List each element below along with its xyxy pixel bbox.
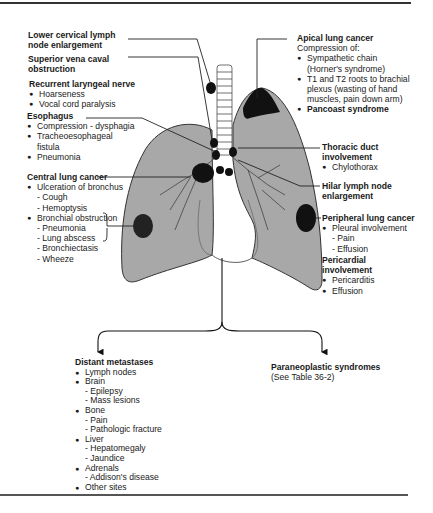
pancoast-item: Pancoast syndrome xyxy=(297,104,410,114)
trachea xyxy=(217,65,232,155)
sub-item: - Lung abscess xyxy=(27,233,123,243)
hilar-title-2: enlargement xyxy=(322,191,392,201)
heart-outline xyxy=(212,255,252,262)
label-esophagus: Esophagus Compression - dysphagia Trache… xyxy=(27,111,134,162)
peripheral-title: Peripheral lung cancer xyxy=(322,213,415,223)
label-distant-metastases: Distant metastases Lymph nodes Brain - E… xyxy=(75,358,162,492)
label-pericardial: Pericardial involvement Pericarditis Eff… xyxy=(322,255,375,296)
label-recurrent-laryngeal: Recurrent laryngeal nerve Hoarseness Voc… xyxy=(29,79,135,110)
hilar-title-1: Hilar lymph node xyxy=(322,181,392,191)
svc-title-2: obstruction xyxy=(28,64,109,74)
sub-item: - Wheeze xyxy=(27,254,123,264)
list-item: Pleural involvement xyxy=(322,223,415,233)
sub-item: - Pain xyxy=(322,233,415,243)
label-peripheral-lung-cancer: Peripheral lung cancer Pleural involveme… xyxy=(322,213,415,254)
list-item: Effusion xyxy=(322,286,375,296)
sub-item: - Effusion xyxy=(322,244,415,254)
paraneoplastic-title: Paraneoplastic syndromes xyxy=(271,362,380,372)
central-lung-cancer-title: Central lung cancer xyxy=(27,172,123,182)
recurrent-laryngeal-title: Recurrent laryngeal nerve xyxy=(29,79,135,89)
sub-item: - Pneumonia xyxy=(27,223,123,233)
thoracic-duct-title-2: involvement xyxy=(322,152,378,162)
peripheral-tumor xyxy=(296,204,316,232)
list-item-cont: plexus (wasting of hand xyxy=(297,84,410,94)
list-item: Bronchial obstruction xyxy=(27,213,123,223)
list-item-cont: muscles, pain down arm) xyxy=(297,94,410,104)
list-item: Chylothorax xyxy=(322,162,378,172)
list-item: Compression - dysphagia xyxy=(27,121,134,131)
list-item: Hoarseness xyxy=(29,89,135,99)
label-apical-lung-cancer: Apical lung cancer Compression of: Sympa… xyxy=(297,33,410,115)
distant-list: Lymph nodes Brain - Epilepsy - Mass lesi… xyxy=(75,368,162,493)
label-paraneoplastic: Paraneoplastic syndromes (See Table 36-2… xyxy=(271,362,380,382)
list-item: Sympathetic chain xyxy=(297,53,410,63)
label-lower-cervical: Lower cervical lymph node enlargement xyxy=(28,30,115,50)
list-item: Other sites xyxy=(75,483,162,493)
list-item: Pneumonia xyxy=(27,152,134,162)
thoracic-duct-title-1: Thoracic duct xyxy=(322,142,378,152)
lower-cervical-title-2: node enlargement xyxy=(28,40,115,50)
list-item-cont: fistula xyxy=(27,142,134,152)
sub-item: - Hemoptysis xyxy=(27,203,123,213)
paraneoplastic-note: (See Table 36-2) xyxy=(271,372,380,382)
esophagus-title: Esophagus xyxy=(27,111,134,121)
list-item: Tracheoesophageal xyxy=(27,131,134,141)
list-item: Vocal cord paralysis xyxy=(29,99,135,109)
list-item: T1 and T2 roots to brachial xyxy=(297,74,410,84)
sub-item: - Cough xyxy=(27,192,123,202)
svc-title-1: Superior vena caval xyxy=(28,54,109,64)
sub-item: - Bronchiectasis xyxy=(27,243,123,253)
apical-title: Apical lung cancer xyxy=(297,33,410,43)
list-item: Pericarditis xyxy=(322,275,375,285)
list-item: Ulceration of bronchus xyxy=(27,182,123,192)
central-tumor xyxy=(192,163,214,183)
list-item-cont: (Horner's syndrome) xyxy=(297,64,410,74)
apical-intro: Compression of: xyxy=(297,43,410,53)
label-hilar: Hilar lymph node enlargement xyxy=(322,181,392,201)
label-central-lung-cancer: Central lung cancer Ulceration of bronch… xyxy=(27,172,123,264)
label-thoracic-duct: Thoracic duct involvement Chylothorax xyxy=(322,142,378,173)
pericardial-title-2: involvement xyxy=(322,265,375,275)
pericardial-title-1: Pericardial xyxy=(322,255,375,265)
label-svc: Superior vena caval obstruction xyxy=(28,54,109,74)
lower-cervical-title-1: Lower cervical lymph xyxy=(28,30,115,40)
